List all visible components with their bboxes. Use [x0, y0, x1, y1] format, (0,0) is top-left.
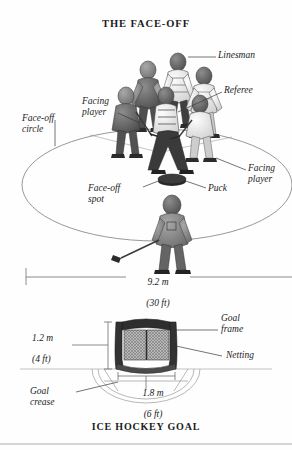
goal-post-right — [169, 322, 177, 369]
illustration-plate: THE FACE-OFF — [0, 0, 292, 450]
goal-width-metric: 1.8 m — [130, 388, 176, 399]
puck-shape — [158, 174, 186, 186]
goal-height-metric: 1.2 m — [32, 333, 76, 344]
label-netting: Netting — [226, 350, 254, 361]
label-face-off-circle: Face-off circle — [22, 113, 54, 135]
goal-height-imperial: (4 ft) — [32, 354, 76, 365]
label-goal-crease: Goal crease — [30, 386, 54, 408]
goal-width-imperial: (6 ft) — [130, 409, 176, 420]
label-goal-frame: Goal frame — [221, 313, 243, 335]
dimension-metric: 9.2 m — [128, 277, 188, 288]
goal-crossbar — [122, 319, 170, 330]
player-foreground — [111, 195, 192, 274]
label-facing-player-left: Facing player — [82, 96, 109, 118]
label-facing-player-right: Facing player — [248, 163, 275, 185]
dimension-goal-height: 1.2 m (4 ft) — [32, 322, 76, 375]
dimension-imperial: (30 ft) — [128, 298, 188, 309]
label-face-off-spot: Face-off spot — [88, 183, 120, 205]
netting-panel-right — [147, 330, 169, 360]
netting-panel-left — [124, 330, 146, 360]
dimension-face-off-circle-diameter: 9.2 m (30 ft) — [128, 266, 188, 319]
players-group — [111, 53, 222, 274]
goal-post-left — [115, 322, 123, 369]
label-linesman: Linesman — [218, 50, 255, 61]
label-referee: Referee — [224, 85, 253, 96]
label-puck: Puck — [208, 183, 227, 194]
page-title-ice-hockey-goal: ICE HOCKEY GOAL — [0, 421, 292, 432]
